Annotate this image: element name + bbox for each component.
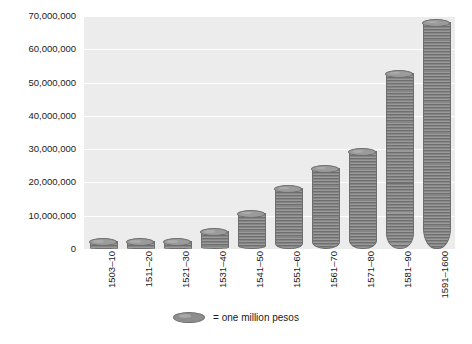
coin-top-icon (422, 19, 450, 27)
x-axis: 1503–101511–201521–301531–401541–501551–… (84, 251, 455, 309)
bars-layer (84, 16, 455, 249)
bar (127, 242, 153, 249)
legend-label: = one million pesos (213, 312, 299, 323)
bar (201, 232, 227, 249)
x-axis-tick-label: 1541–50 (255, 251, 265, 288)
y-axis-tick-label: 70,000,000 (28, 11, 76, 21)
bar (312, 169, 338, 249)
coin-top-icon (237, 210, 265, 218)
bar (275, 189, 301, 249)
plot-area (84, 16, 455, 249)
x-axis-tick-label: 1581–90 (403, 251, 413, 288)
x-axis-tick-label: 1503–10 (107, 251, 117, 288)
bar (164, 242, 190, 249)
x-axis-tick-label: 1551–60 (292, 251, 302, 288)
bar (386, 74, 412, 249)
x-axis-tick-label: 1561–70 (329, 251, 339, 288)
x-axis-tick-label: 1591–1600 (440, 251, 450, 299)
bar (423, 23, 449, 249)
bar (238, 214, 264, 249)
x-axis-tick-label: 1531–40 (218, 251, 228, 288)
coin-stack (349, 151, 377, 249)
coin-icon (173, 312, 205, 323)
y-axis-tick-label: 60,000,000 (28, 44, 76, 54)
coin-stack (312, 168, 340, 249)
coin-stack (423, 22, 451, 249)
x-axis-tick-label: 1521–30 (181, 251, 191, 288)
coin-stack (238, 213, 266, 249)
x-axis-tick-label: 1571–80 (366, 251, 376, 288)
chart-root: 010,000,00020,000,00030,000,00040,000,00… (0, 0, 472, 344)
bar (349, 152, 375, 249)
chart-legend: = one million pesos (0, 312, 472, 323)
coin-stack (386, 73, 414, 249)
y-axis-tick-label: 30,000,000 (28, 144, 76, 154)
y-axis: 010,000,00020,000,00030,000,00040,000,00… (0, 0, 82, 262)
y-axis-tick-label: 10,000,000 (28, 211, 76, 221)
y-axis-tick-label: 0 (71, 244, 76, 254)
y-axis-tick-label: 40,000,000 (28, 111, 76, 121)
y-axis-tick-label: 50,000,000 (28, 78, 76, 88)
coin-stack (275, 188, 303, 249)
bar (90, 242, 116, 249)
y-axis-tick-label: 20,000,000 (28, 177, 76, 187)
x-axis-tick-label: 1511–20 (144, 251, 154, 287)
